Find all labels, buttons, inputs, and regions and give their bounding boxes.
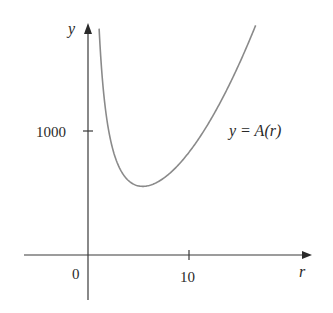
chart: y r 0 10 1000 y = A(r) xyxy=(0,0,333,313)
curve-label-prefix: y = xyxy=(227,122,255,140)
curve-label: y = A(r) xyxy=(227,122,281,140)
x-tick-label-10: 10 xyxy=(180,269,195,285)
curve-a-of-r xyxy=(99,25,256,186)
y-tick-label-1000: 1000 xyxy=(36,124,66,140)
curve-label-func: A(r) xyxy=(254,122,282,140)
x-axis-label: r xyxy=(299,263,306,280)
x-axis-arrow-icon xyxy=(302,251,312,259)
y-axis-label: y xyxy=(66,20,76,38)
y-axis-arrow-icon xyxy=(84,23,92,34)
origin-label: 0 xyxy=(72,266,80,282)
